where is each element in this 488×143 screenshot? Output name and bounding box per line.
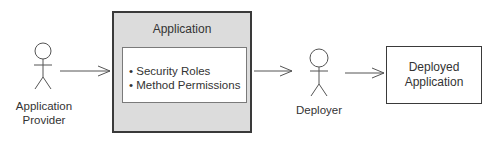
deployed-label-line: Application bbox=[405, 75, 464, 90]
application-contents-box: • Security Roles • Method Permissions bbox=[122, 47, 247, 103]
actor-icon-deployer bbox=[310, 49, 328, 96]
actor-label-deployer: Deployer bbox=[289, 103, 349, 117]
list-item-method-permissions: • Method Permissions bbox=[123, 78, 246, 92]
arrow-provider-to-application bbox=[60, 66, 110, 76]
application-title: Application bbox=[114, 22, 250, 36]
arrow-application-to-deployer bbox=[254, 66, 292, 76]
actor-label-line: Provider bbox=[8, 113, 80, 127]
arrow-deployer-to-deployed-application bbox=[345, 68, 384, 78]
actor-icon-application-provider bbox=[34, 43, 52, 89]
actor-label-application-provider: Application Provider bbox=[8, 99, 80, 127]
deployed-label-line: Deployed bbox=[409, 60, 460, 75]
actor-label-line: Deployer bbox=[289, 103, 349, 117]
application-box: Application • Security Roles • Method Pe… bbox=[112, 11, 252, 133]
actor-label-line: Application bbox=[8, 99, 80, 113]
deployed-application-box: Deployed Application bbox=[386, 46, 482, 104]
list-item-security-roles: • Security Roles bbox=[123, 64, 246, 78]
